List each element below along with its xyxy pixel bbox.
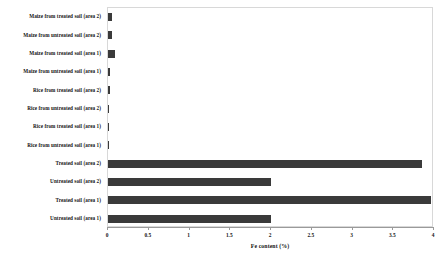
bar [108,215,271,223]
bar-row [108,81,432,99]
bar [108,50,115,58]
x-axis-tick-label: 0.5 [133,232,163,238]
x-axis-tick-label: 2 [255,232,285,238]
x-axis-tick-label: 0 [92,232,122,238]
y-axis-label: Rice from treated soil (area 1) [0,123,101,129]
bar [108,68,110,76]
bar [108,196,431,204]
y-axis-category-labels: Maize from treated soil (area 2)Maize fr… [0,7,104,227]
x-axis-title: Fe content (%) [107,243,433,249]
x-axis-tick [392,227,393,230]
y-axis-label: Maize from untreated soil (area 1) [0,68,101,74]
y-axis-label: Untreated soil (area 1) [0,215,101,221]
bar [108,160,422,168]
bars-container [108,8,432,226]
bar-row [108,155,432,173]
bar-row [108,210,432,228]
x-axis-tick [352,227,353,230]
bar-row [108,173,432,191]
y-axis-label: Rice from untreated soil (area 1) [0,142,101,148]
bar [108,141,109,149]
x-axis-tick [433,227,434,230]
x-axis-tick-label: 4 [418,232,441,238]
x-axis-tick [270,227,271,230]
bar [108,105,109,113]
x-axis-tick [148,227,149,230]
bar-row [108,136,432,154]
x-axis-tick-label: 3 [337,232,367,238]
x-axis-tick-label: 2.5 [296,232,326,238]
bar [108,123,109,131]
y-axis-label: Maize from treated soil (area 1) [0,50,101,56]
y-axis-label: Treated soil (area 1) [0,197,101,203]
y-axis-label: Untreated soil (area 2) [0,178,101,184]
x-axis-tick [107,227,108,230]
fe-content-bar-chart: Maize from treated soil (area 2)Maize fr… [0,0,441,259]
bar [108,13,112,21]
bar-row [108,8,432,26]
x-axis-tick-label: 1.5 [214,232,244,238]
y-axis-label: Maize from treated soil (area 2) [0,13,101,19]
x-axis-tick [189,227,190,230]
x-axis-tick [229,227,230,230]
bar [108,31,112,39]
bar-row [108,191,432,209]
bar-row [108,26,432,44]
y-axis-label: Rice from treated soil (area 2) [0,87,101,93]
bar [108,86,110,94]
y-axis-label: Rice from untreated soil (area 2) [0,105,101,111]
bar-row [108,100,432,118]
x-axis-tick-label: 3.5 [377,232,407,238]
bar [108,178,271,186]
bar-row [108,45,432,63]
bar-row [108,118,432,136]
x-axis-tick-label: 1 [174,232,204,238]
plot-area [107,7,433,227]
bar-row [108,63,432,81]
y-axis-label: Treated soil (area 2) [0,160,101,166]
y-axis-label: Maize from untreated soil (area 2) [0,32,101,38]
x-axis-tick [311,227,312,230]
